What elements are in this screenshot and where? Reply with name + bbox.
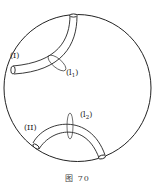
loop-l1-label: (l1) — [66, 68, 78, 78]
diagram-canvas: (I) (l1) (II) (l2) — [0, 0, 155, 184]
tube-2-label: (II) — [24, 123, 37, 132]
tube-1-label: (I) — [10, 51, 19, 60]
loop-l2 — [67, 113, 73, 139]
region-circle — [4, 15, 151, 162]
figure-caption: 图 70 — [0, 172, 155, 183]
figure-70: (I) (l1) (II) (l2) 图 70 — [0, 0, 155, 184]
loop-l1 — [46, 52, 69, 73]
tube-2 — [32, 124, 106, 159]
loop-l2-label: (l2) — [80, 110, 92, 120]
